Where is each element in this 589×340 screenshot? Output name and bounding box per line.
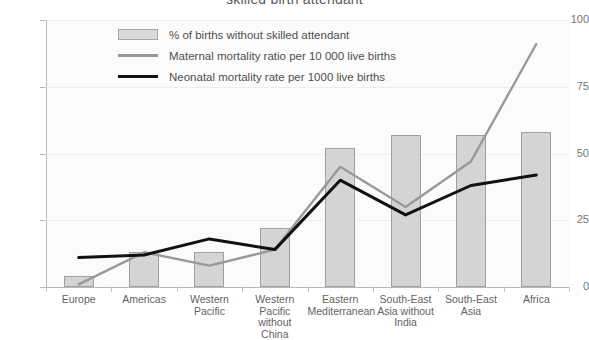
x-tick-label-line: South-East [373,294,438,306]
x-tick-mark [308,287,309,292]
x-tick-label-africa: Africa [504,294,569,306]
x-tick-label-europe: Europe [46,294,111,306]
x-tick-label-line: Africa [504,294,569,306]
legend-label-bar: % of births without skilled attendant [169,29,349,41]
x-tick-mark [438,287,439,292]
x-tick-label-americas: Americas [111,294,176,306]
x-tick-label-line: Western [177,294,242,306]
x-tick-label-western-pacific-without-china: WesternPacific withoutChina [242,294,307,340]
x-tick-mark [46,287,47,292]
legend-label-maternal: Maternal mortality ratio per 10 000 live… [169,50,396,62]
x-tick-mark [569,287,570,292]
x-tick-label-line: Europe [46,294,111,306]
x-tick-label-line: Americas [111,294,176,306]
x-tick-mark [504,287,505,292]
gray-line-swatch-icon [118,54,158,57]
x-tick-label-line: India [373,317,438,329]
x-tick-label-western-pacific: WesternPacific [177,294,242,317]
bar-swatch-icon [118,29,158,40]
x-tick-label-south-east-asia: South-EastAsia [438,294,503,317]
x-tick-mark [242,287,243,292]
x-tick-label-line: Pacific [177,306,242,318]
x-tick-label-line: Pacific without [242,306,307,329]
black-line-swatch-icon [118,75,158,78]
x-tick-label-line: China [242,329,307,340]
x-tick-mark [177,287,178,292]
x-tick-label-line: South-East [438,294,503,306]
x-tick-label-south-east-asia-without-india: South-EastAsia withoutIndia [373,294,438,329]
x-tick-label-line: Western [242,294,307,306]
line-neonatal [79,175,537,258]
x-tick-label-line: Asia [438,306,503,318]
legend-item-neonatal: Neonatal mortality rate per 1000 live bi… [118,66,448,87]
x-tick-label-eastern-mediterranean: EasternMediterranean [308,294,373,317]
x-tick-mark [373,287,374,292]
legend-item-bar: % of births without skilled attendant [118,24,448,45]
x-tick-mark [111,287,112,292]
legend-item-maternal: Maternal mortality ratio per 10 000 live… [118,45,448,66]
x-tick-label-line: Mediterranean [308,306,373,318]
chart-legend: % of births without skilled attendant Ma… [118,24,448,87]
x-tick-label-line: Eastern [308,294,373,306]
legend-label-neonatal: Neonatal mortality rate per 1000 live bi… [169,71,385,83]
